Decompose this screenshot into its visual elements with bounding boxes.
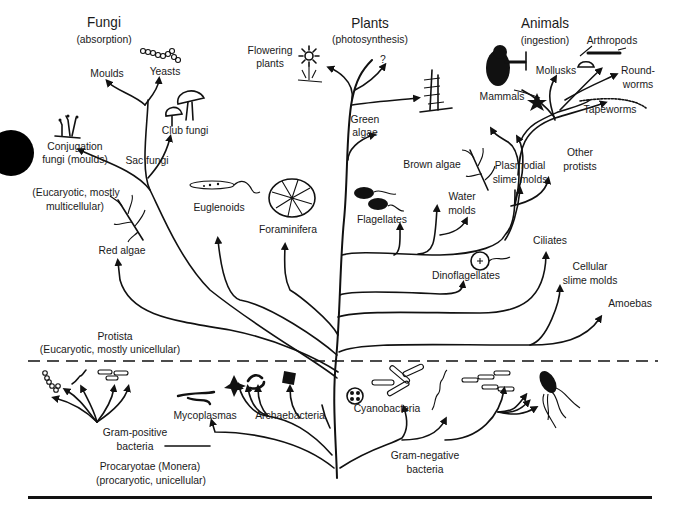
group-subtitle-protista: (Eucaryotic, mostly unicellular) <box>29 343 191 356</box>
starfish-icon <box>527 93 547 111</box>
conifer-trees-icon <box>420 70 452 112</box>
spirochete-icon <box>432 370 447 410</box>
cyanobacteria-icons <box>347 364 424 404</box>
label-mollusks: Mollusks <box>531 64 581 77</box>
label-other-protists-line2: protists <box>558 160 603 173</box>
label-conjugation-fungi-line1: Conjugation <box>39 140 111 153</box>
label-tapeworms: Tapeworms <box>581 103 639 116</box>
label-brown-algae: Brown algae <box>403 158 461 171</box>
label-plasmodial-slime-molds-line1: Plasmodial <box>491 159 549 172</box>
foraminifera-icon <box>269 179 315 217</box>
label-gram-positive-line2: bacteria <box>99 440 171 453</box>
label-plasmodial-slime-molds-line2: slime molds <box>491 173 549 186</box>
kingdom-title-fungi: Fungi <box>68 13 140 30</box>
label-roundworms-line1: Round- <box>616 64 659 77</box>
label-gram-negative-line2: bacteria <box>385 463 466 476</box>
label-conjugation-fungi-line2: fungi (moulds) <box>39 153 111 166</box>
red-algae-icon <box>110 195 145 242</box>
spirillum-icon <box>72 370 86 384</box>
flagellated-bacterium-icon <box>536 368 580 428</box>
yeasts-icon <box>141 49 181 63</box>
label-sac-fungi: Sac fungi <box>125 154 170 167</box>
euglenoid-icon <box>190 181 260 193</box>
group-title-monera: Procaryotae (Monera) <box>96 460 204 473</box>
label-cellular-slime-molds-line1: Cellular <box>559 260 622 273</box>
label-flowering-plants-line2: plants <box>245 57 295 70</box>
label-eucaryotic-multicellular-line2: multicellular) <box>44 200 107 213</box>
label-water-molds-line2: molds <box>442 204 482 217</box>
arthropod-grasshopper-icon <box>580 46 626 56</box>
label-flowering-plants-line1: Flowering <box>245 44 295 57</box>
kingdom-title-plants: Plants <box>334 14 406 31</box>
label-green-algae-line2: algae <box>347 126 383 139</box>
kingdom-subtitle-plants: (photosynthesis) <box>325 33 415 46</box>
label-water-molds-line1: Water <box>442 190 482 203</box>
label-yeasts: Yeasts <box>143 65 188 78</box>
group-subtitle-monera: (procaryotic, unicellular) <box>96 474 204 487</box>
label-cellular-slime-molds-line2: slime molds <box>559 274 622 287</box>
label-green-algae-line1: Green <box>347 113 383 126</box>
label-unknown-plant: ? <box>376 53 390 66</box>
cocci-chain-icon <box>43 371 61 393</box>
brown-algae-icon <box>462 148 495 190</box>
label-cyanobacteria: Cyanobacteria <box>351 402 423 415</box>
mycoplasma-icon <box>178 392 214 404</box>
mushroom-icon <box>166 91 204 126</box>
label-club-fungi: Club fungi <box>158 124 212 137</box>
label-archaebacteria: Archaebacteria <box>254 409 326 422</box>
label-gram-negative-line1: Gram-negative <box>385 449 466 462</box>
conjugation-fungi-icon <box>55 115 80 139</box>
filament-bacteria-icon <box>462 371 514 391</box>
mammal-ape-icon <box>486 45 526 86</box>
label-moulds: Moulds <box>85 67 130 80</box>
label-eucaryotic-multicellular-line1: (Eucaryotic, mostly <box>31 186 121 199</box>
bottom-rule <box>28 496 652 499</box>
flagellates-icon <box>354 187 404 211</box>
group-title-protista: Protista <box>66 330 165 343</box>
kingdom-subtitle-animals: (ingestion) <box>509 34 581 47</box>
label-ciliates: Ciliates <box>528 234 573 247</box>
kingdom-title-animals: Animals <box>509 14 581 31</box>
label-amoebas: Amoebas <box>603 297 657 310</box>
flower-icon <box>298 46 322 82</box>
label-mycoplasmas: Mycoplasmas <box>174 409 237 422</box>
archaebacteria-icons <box>224 371 296 397</box>
dinoflagellate-icon <box>471 252 510 270</box>
label-other-protists-line1: Other <box>558 146 603 159</box>
label-euglenoids: Euglenoids <box>192 201 246 214</box>
label-mammals: Mammals <box>475 90 529 103</box>
label-flagellates: Flagellates <box>353 213 411 226</box>
label-gram-positive-line1: Gram-positive <box>99 426 171 439</box>
label-dinoflagellates: Dinoflagellates <box>430 269 502 282</box>
bacilli-icon <box>98 370 128 380</box>
kingdom-subtitle-fungi: (absorption) <box>68 33 140 46</box>
label-arthropods: Arthropods <box>583 34 641 47</box>
label-foraminifera: Foraminifera <box>256 223 321 236</box>
label-roundworms-line2: worms <box>616 78 659 91</box>
label-red-algae: Red algae <box>95 244 149 257</box>
truncated-caption <box>150 502 550 506</box>
